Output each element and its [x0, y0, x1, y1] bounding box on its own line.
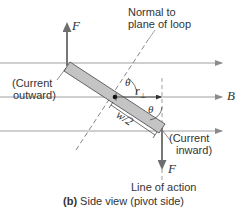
current-outward-line1: (Current	[12, 77, 52, 89]
current-inward-line2: inward)	[176, 144, 212, 156]
force-label-bottom: F	[168, 163, 176, 175]
line-of-action-label: Line of action	[131, 181, 196, 193]
force-label-top: F	[72, 20, 80, 32]
theta-label-right: θ	[148, 103, 153, 115]
leader-current-outward	[57, 68, 66, 80]
theta-label-top: θ	[125, 76, 130, 88]
current-outward-line2: outward)	[13, 89, 56, 101]
pivot-point	[113, 95, 118, 100]
torque-on-loop-diagram: F F B Normal to plane of loop (Current o…	[0, 0, 246, 211]
diagram-canvas	[0, 0, 246, 211]
leader-normal	[148, 30, 155, 40]
figure-caption: (b) Side view (pivot side)	[63, 195, 184, 207]
current-inward-line1: (Current	[169, 132, 209, 144]
r-perp-label: r⊥	[135, 85, 146, 102]
field-label: B	[227, 90, 235, 102]
normal-label-line2: plane of loop	[128, 18, 191, 30]
normal-label-line1: Normal to	[128, 6, 176, 18]
